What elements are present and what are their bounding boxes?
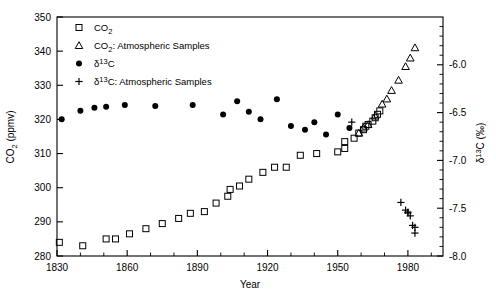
data-point	[311, 119, 317, 125]
co2-d13c-scatter-chart: 1830186018901920195019802802903003103203…	[0, 0, 496, 297]
data-point	[190, 102, 196, 108]
data-point	[283, 164, 289, 170]
legend-markers	[75, 25, 83, 86]
data-series-markers	[56, 44, 418, 249]
data-point	[234, 98, 240, 104]
data-point	[152, 103, 158, 109]
data-point	[103, 104, 109, 110]
x-axis-title: Year	[240, 279, 261, 290]
data-point	[91, 105, 97, 111]
data-point	[335, 149, 341, 155]
data-point	[297, 152, 303, 158]
y-axis-right-title: δ13C (‰)	[474, 123, 487, 164]
data-point	[143, 226, 149, 232]
data-point	[402, 63, 410, 70]
data-point	[122, 102, 128, 108]
legend-marker-2	[76, 61, 82, 67]
data-point	[258, 116, 264, 122]
y-left-tick-label: 280	[34, 251, 51, 262]
data-point	[77, 108, 83, 114]
x-tick-label: 1830	[46, 262, 69, 273]
data-point	[348, 119, 355, 126]
data-point	[225, 193, 231, 199]
data-point	[411, 44, 419, 51]
data-point	[302, 127, 308, 133]
data-point	[246, 109, 252, 115]
x-tick-label: 1890	[186, 262, 209, 273]
y-axis-left-title: CO2 (ppmv)	[5, 110, 19, 163]
data-point	[397, 199, 404, 206]
data-point	[246, 176, 252, 182]
series-1	[355, 44, 419, 136]
chart-figure: 1830186018901920195019802802903003103203…	[0, 0, 496, 297]
y-right-tick-label: -6.5	[449, 107, 467, 118]
series-0	[56, 108, 382, 249]
y-left-tick-label: 310	[34, 148, 51, 159]
y-right-tick-label: -7.0	[449, 155, 467, 166]
data-point	[406, 54, 414, 61]
y-left-tick-label: 350	[34, 12, 51, 23]
axis-ticks	[57, 17, 443, 256]
data-point	[220, 112, 226, 118]
legend-label-co2: CO2	[94, 22, 112, 36]
legend-marker-3	[75, 78, 82, 85]
data-point	[260, 169, 266, 175]
data-point	[323, 132, 329, 138]
x-tick-label: 1950	[327, 262, 350, 273]
x-tick-label: 1860	[116, 262, 139, 273]
data-point	[272, 164, 278, 170]
data-point	[342, 145, 348, 151]
data-point	[395, 76, 403, 83]
data-point	[314, 151, 320, 157]
legend-label-co2-atmospheric-samples: CO2: Atmospheric Samples	[94, 40, 210, 54]
plot-frame	[57, 17, 443, 256]
y-right-tick-label: -8.0	[449, 251, 467, 262]
legend-marker-0	[76, 25, 82, 31]
plot-border	[57, 17, 443, 256]
data-point	[227, 186, 233, 192]
legend-label-d13c: δ13C	[94, 57, 115, 70]
data-point	[112, 236, 118, 242]
data-point	[80, 243, 86, 249]
data-point	[411, 229, 418, 236]
x-tick-label: 1920	[256, 262, 279, 273]
data-point	[342, 139, 348, 145]
data-point	[274, 96, 280, 102]
data-point	[383, 95, 391, 102]
x-tick-label: 1980	[397, 262, 420, 273]
data-point	[103, 236, 109, 242]
legend-marker-1	[75, 42, 83, 49]
data-point	[201, 209, 207, 215]
y-left-tick-label: 290	[34, 216, 51, 227]
series-2	[59, 96, 353, 137]
y-left-tick-label: 320	[34, 114, 51, 125]
data-point	[288, 123, 294, 129]
y-left-tick-label: 330	[34, 80, 51, 91]
data-point	[213, 200, 219, 206]
data-point	[236, 183, 242, 189]
data-point	[378, 100, 386, 107]
y-left-tick-label: 340	[34, 46, 51, 57]
data-point	[388, 87, 396, 94]
legend-label-d13c-atmospheric-samples: δ13C: Atmospheric Samples	[94, 75, 212, 88]
data-point	[59, 116, 65, 122]
data-point	[187, 210, 193, 216]
data-point	[159, 221, 165, 227]
data-point	[127, 231, 133, 237]
data-point	[176, 215, 182, 221]
data-point	[335, 112, 341, 118]
y-right-tick-label: -6.0	[449, 59, 467, 70]
y-left-tick-label: 300	[34, 182, 51, 193]
y-right-tick-label: -7.5	[449, 203, 467, 214]
data-point	[346, 125, 352, 131]
